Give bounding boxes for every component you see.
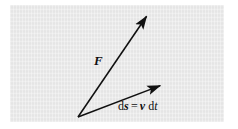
vector-force-label: F	[94, 54, 103, 67]
vector-displacement-label: ds=vdt	[118, 100, 158, 112]
displacement-label-equals: =	[129, 99, 140, 113]
figure-root: F ds=vdt	[0, 0, 238, 129]
displacement-label-v: v	[140, 99, 145, 113]
displacement-label-t: t	[154, 99, 157, 113]
